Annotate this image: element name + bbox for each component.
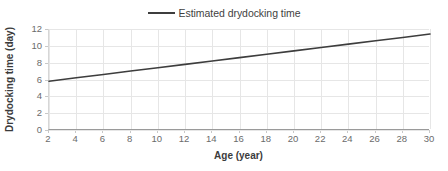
x-axis-tick-mark [429,130,430,133]
legend-entry-label: Estimated drydocking time [179,7,301,19]
series-line-estimated-drydocking-time [49,34,430,81]
y-axis-tick-label: 6 [20,74,42,85]
chart-figure: Estimated drydocking time Drydocking tim… [0,0,448,171]
x-axis-tick-label: 30 [419,133,439,144]
x-axis-tick-label: 6 [92,133,112,144]
gridline-vertical [430,29,431,129]
x-axis-tick-label: 20 [283,133,303,144]
x-axis-tick-label: 12 [174,133,194,144]
x-axis-tick-label: 26 [365,133,385,144]
x-axis-tick-label: 2 [38,133,58,144]
gridline-horizontal [49,130,429,131]
line-marker-icon [148,12,175,14]
x-axis-tick-label: 28 [392,133,412,144]
x-axis-tick-label: 14 [201,133,221,144]
x-axis-tick-label: 4 [65,133,85,144]
y-axis-tick-label: 4 [20,90,42,101]
y-axis-tick-label: 10 [20,40,42,51]
x-axis-tick-label: 16 [229,133,249,144]
plot-area [48,29,429,130]
x-axis-tick-label: 8 [120,133,140,144]
y-axis-tick-label: 2 [20,107,42,118]
y-axis-tick-label: 12 [20,23,42,34]
x-axis-tick-label: 24 [337,133,357,144]
x-axis-tick-label: 10 [147,133,167,144]
series-layer [49,29,430,130]
x-axis-tick-label: 18 [256,133,276,144]
y-axis-title: Drydocking time (day) [0,29,18,130]
x-axis-tick-label: 22 [310,133,330,144]
x-axis-title: Age (year) [48,150,429,161]
y-axis-tick-label: 8 [20,57,42,68]
chart-legend: Estimated drydocking time [0,4,448,22]
